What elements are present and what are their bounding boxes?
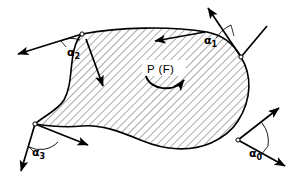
angle-arc-alpha-1 [222, 25, 231, 31]
label-alpha-0: α0 [249, 147, 263, 162]
vector-group-alpha-3: α3 [21, 122, 88, 171]
vector-top-right-edge [241, 26, 267, 57]
vertex-top-right [239, 55, 243, 59]
vertex-bottom-left [33, 122, 37, 126]
vertex-top-left [80, 32, 84, 36]
vector-group-alpha-0: α0 [236, 108, 285, 166]
vertex-bottom-right [236, 138, 240, 142]
leader-alpha-2 [61, 41, 66, 47]
vector-bottom-right-up [238, 108, 279, 140]
figure-container: α2 α1 α3 [0, 0, 297, 181]
leader-alpha-1-right [231, 25, 234, 36]
label-alpha-3: α3 [32, 146, 45, 161]
angle-arc-alpha-0 [262, 123, 268, 146]
diagram-canvas: α2 α1 α3 [0, 0, 297, 181]
moment-label: P (F) [147, 63, 174, 75]
